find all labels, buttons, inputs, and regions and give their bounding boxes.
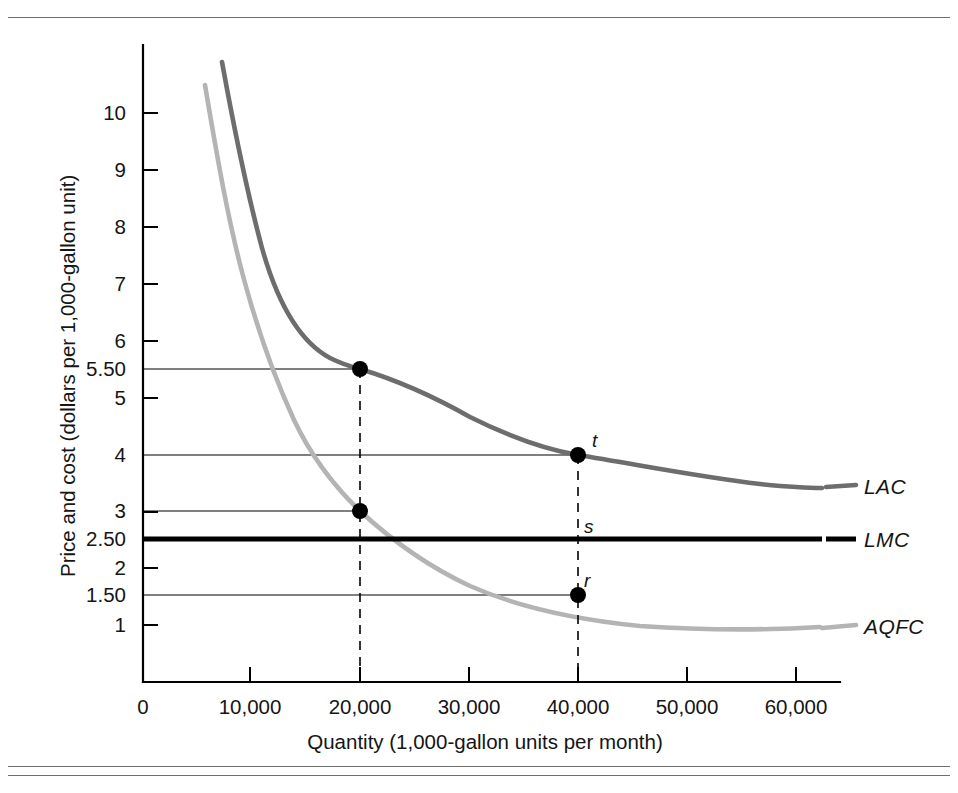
y-axis-title: Price and cost (dollars per 1,000-gallon…	[56, 175, 80, 577]
x-tick-label-50000: 50,000	[627, 695, 747, 719]
y-tick-label-5.50: 5.50	[40, 357, 126, 381]
curve-label-lmc: LMC	[864, 528, 910, 552]
y-tick-label-4: 4	[40, 443, 126, 467]
y-tick-label-3: 3	[40, 499, 126, 523]
x-axis-ticks	[250, 667, 796, 682]
chart-canvas	[0, 0, 958, 793]
y-tick-label-8: 8	[40, 215, 126, 239]
y-tick-label-2.50: 2.50	[40, 527, 126, 551]
x-axis-title: Quantity (1,000-gallon units per month)	[185, 730, 785, 754]
data-point-aqfc-20000	[352, 503, 368, 519]
x-tick-label-20000: 20,000	[300, 695, 420, 719]
data-point-markers	[352, 361, 586, 603]
y-tick-label-7: 7	[40, 272, 126, 296]
x-tick-label-40000: 40,000	[518, 695, 638, 719]
x-tick-label-60000: 60,000	[736, 695, 856, 719]
y-tick-label-1.50: 1.50	[40, 583, 126, 607]
legend-swatch-aqfc	[822, 625, 856, 628]
curve-label-aqfc: AQFC	[864, 615, 924, 639]
legend-swatch-lac	[826, 485, 856, 487]
point-label-s: s	[584, 516, 594, 538]
y-tick-label-2: 2	[40, 556, 126, 580]
curve-aqfc	[205, 85, 820, 629]
x-tick-label-0: 0	[83, 695, 203, 719]
y-tick-label-6: 6	[40, 329, 126, 353]
x-tick-label-30000: 30,000	[409, 695, 529, 719]
curve-lac	[222, 62, 822, 488]
x-tick-label-10000: 10,000	[190, 695, 310, 719]
data-point-lac-20000	[352, 361, 368, 377]
data-point-t	[570, 447, 586, 463]
y-tick-label-9: 9	[40, 158, 126, 182]
point-label-r: r	[584, 570, 590, 592]
y-tick-label-1: 1	[40, 613, 126, 637]
y-tick-label-10: 10	[40, 101, 126, 125]
figure-container: 10 9 8 7 6 5.50 5 4 3 2.50 2 1.50 1 0 10…	[0, 0, 958, 793]
y-tick-label-5: 5	[40, 386, 126, 410]
curve-label-lac: LAC	[864, 475, 906, 499]
legend-swatches	[822, 485, 856, 628]
point-label-t: t	[592, 430, 597, 452]
